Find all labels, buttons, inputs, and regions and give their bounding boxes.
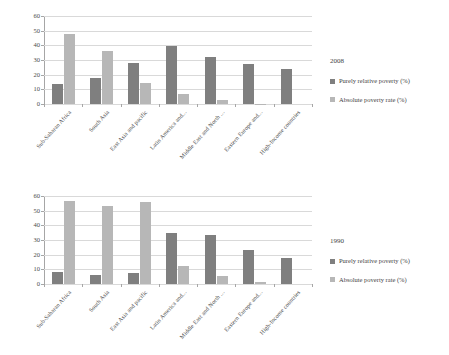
bar[interactable] bbox=[243, 64, 254, 104]
legend-item-absolute-poverty-rate-1990[interactable]: Absolute poverty rate (%) bbox=[330, 277, 448, 284]
legend-swatch-dark-icon bbox=[330, 79, 335, 84]
x-axis-label: Middle East and North ... bbox=[179, 109, 226, 160]
bar-group bbox=[235, 16, 273, 104]
chart-1990: 0102030405060 1990 Purely relative pover… bbox=[0, 182, 449, 355]
legend-swatch-dark-icon bbox=[330, 259, 335, 264]
x-axis-label: High-Income countries bbox=[259, 109, 302, 156]
x-axis-label: Latin America and... bbox=[148, 289, 187, 331]
x-tick-mark bbox=[82, 104, 83, 107]
legend-item-purely-relative-poverty-2008[interactable]: Purely relative poverty (%) bbox=[330, 78, 448, 85]
x-tick-mark bbox=[82, 284, 83, 287]
plot-area-1990: 0102030405060 bbox=[44, 196, 312, 284]
x-tick-mark bbox=[197, 104, 198, 107]
legend-2008: 2008 Purely relative poverty (%) Absolut… bbox=[330, 58, 448, 115]
bar[interactable] bbox=[128, 63, 139, 104]
legend-item-purely-relative-poverty-1990[interactable]: Purely relative poverty (%) bbox=[330, 258, 448, 265]
bar[interactable] bbox=[90, 78, 101, 104]
x-axis-label: High-Income countries bbox=[259, 289, 302, 336]
bar[interactable] bbox=[52, 272, 63, 284]
bar[interactable] bbox=[281, 69, 292, 104]
bar[interactable] bbox=[205, 57, 216, 104]
y-tick-label: 50 bbox=[34, 27, 41, 34]
y-tick-label: 20 bbox=[34, 251, 41, 258]
bar[interactable] bbox=[52, 84, 63, 104]
gridline bbox=[44, 284, 312, 285]
y-tick-label: 0 bbox=[37, 101, 40, 108]
bar-group bbox=[197, 16, 235, 104]
legend-title-2008: 2008 bbox=[330, 58, 448, 65]
x-tick-mark bbox=[121, 284, 122, 287]
plot-area-2008: 0102030405060 bbox=[44, 16, 312, 104]
bar[interactable] bbox=[128, 273, 139, 284]
x-axis-label: Eastern Europe and... bbox=[223, 109, 263, 153]
y-tick-label: 10 bbox=[34, 86, 41, 93]
bar-group bbox=[44, 16, 82, 104]
legend-swatch-light-icon bbox=[330, 277, 335, 282]
y-tick-label: 50 bbox=[34, 207, 41, 214]
x-tick-mark bbox=[235, 284, 236, 287]
legend-label-dark: Purely relative poverty (%) bbox=[339, 258, 410, 265]
legend-item-absolute-poverty-rate-2008[interactable]: Absolute poverty rate (%) bbox=[330, 97, 448, 104]
x-tick-mark bbox=[274, 104, 275, 107]
bar[interactable] bbox=[178, 266, 189, 284]
y-tick-label: 10 bbox=[34, 266, 41, 273]
x-tick-mark bbox=[274, 284, 275, 287]
y-tick-label: 20 bbox=[34, 71, 41, 78]
y-tick-label: 30 bbox=[34, 237, 41, 244]
x-tick-mark bbox=[44, 284, 45, 287]
bar-group bbox=[197, 196, 235, 284]
x-axis-label: Latin America and... bbox=[148, 109, 187, 151]
legend-label-light: Absolute poverty rate (%) bbox=[339, 97, 407, 104]
bar[interactable] bbox=[217, 276, 228, 285]
bar[interactable] bbox=[140, 202, 151, 284]
x-tick-mark bbox=[312, 284, 313, 287]
x-tick-mark bbox=[159, 284, 160, 287]
bar[interactable] bbox=[255, 282, 266, 284]
bar-group bbox=[82, 16, 120, 104]
x-tick-mark bbox=[44, 104, 45, 107]
x-axis-label: Sub-Saharan Africa bbox=[35, 109, 72, 149]
bar[interactable] bbox=[140, 83, 151, 104]
bar[interactable] bbox=[102, 51, 113, 104]
bar[interactable] bbox=[205, 235, 216, 284]
bar-group bbox=[82, 196, 120, 284]
bar-group bbox=[274, 16, 312, 104]
bar-group bbox=[121, 16, 159, 104]
y-tick-label: 30 bbox=[34, 57, 41, 64]
bar-group bbox=[274, 196, 312, 284]
x-axis-label: East Asia and pacific bbox=[109, 109, 149, 152]
y-tick-label: 60 bbox=[34, 193, 41, 200]
bar[interactable] bbox=[64, 201, 75, 284]
legend-label-light: Absolute poverty rate (%) bbox=[339, 277, 407, 284]
x-tick-mark bbox=[235, 104, 236, 107]
y-tick-label: 40 bbox=[34, 222, 41, 229]
legend-label-dark: Purely relative poverty (%) bbox=[339, 78, 410, 85]
bar[interactable] bbox=[64, 34, 75, 104]
x-axis-label: South Asia bbox=[88, 109, 111, 133]
legend-title-1990: 1990 bbox=[330, 238, 448, 245]
bar-group bbox=[121, 196, 159, 284]
bar-group bbox=[235, 196, 273, 284]
bar[interactable] bbox=[166, 46, 177, 104]
bar[interactable] bbox=[90, 275, 101, 284]
x-tick-mark bbox=[197, 284, 198, 287]
bar[interactable] bbox=[102, 206, 113, 284]
bar-group bbox=[44, 196, 82, 284]
y-tick-label: 60 bbox=[34, 13, 41, 20]
x-axis-label: South Asia bbox=[88, 289, 111, 313]
bar-group bbox=[159, 196, 197, 284]
bar[interactable] bbox=[217, 100, 228, 104]
x-axis-label: Eastern Europe and... bbox=[223, 289, 263, 333]
x-axis-label: Sub-Saharan Africa bbox=[35, 289, 72, 329]
bar[interactable] bbox=[178, 94, 189, 104]
bar[interactable] bbox=[281, 258, 292, 284]
y-tick-label: 0 bbox=[37, 281, 40, 288]
x-axis-label: East Asia and pacific bbox=[109, 289, 149, 332]
x-tick-mark bbox=[312, 104, 313, 107]
bar-group bbox=[159, 16, 197, 104]
chart-2008: 0102030405060 2008 Purely relative pover… bbox=[0, 2, 449, 177]
bar[interactable] bbox=[166, 233, 177, 284]
legend-1990: 1990 Purely relative poverty (%) Absolut… bbox=[330, 238, 448, 295]
x-axis-label: Middle East and North ... bbox=[179, 289, 226, 340]
bar[interactable] bbox=[243, 250, 254, 284]
